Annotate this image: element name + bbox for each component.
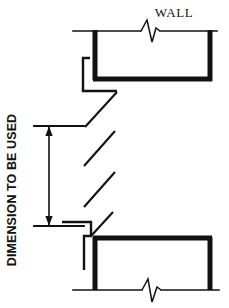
technical-drawing-canvas: WALL DIMENSION TO BE USED xyxy=(0,0,229,308)
break-line-2 xyxy=(84,131,115,166)
break-line-4 xyxy=(91,212,113,236)
dimension-arrowhead-down-icon xyxy=(45,216,52,226)
wall-detail-diagram: WALL DIMENSION TO BE USED xyxy=(0,0,229,308)
bottom-return-flange xyxy=(62,222,91,270)
break-line-1 xyxy=(85,92,117,127)
wall-label: WALL xyxy=(155,5,194,20)
dimension-arrowhead-up-icon xyxy=(45,126,52,136)
dimension-annotation-label: DIMENSION TO BE USED xyxy=(5,114,19,266)
top-break-symbol-icon xyxy=(141,20,160,42)
top-return-flange xyxy=(83,58,117,91)
break-line-3 xyxy=(84,172,115,207)
bottom-break-symbol-icon xyxy=(142,279,161,302)
